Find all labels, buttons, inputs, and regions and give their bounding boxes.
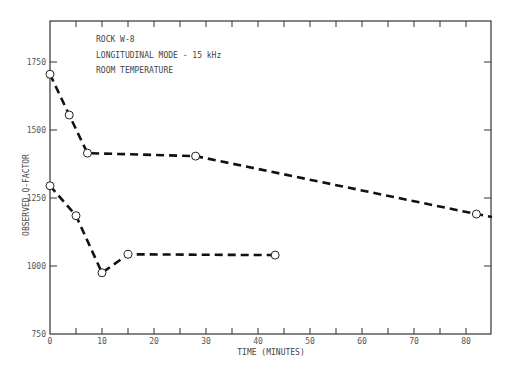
data-point-marker xyxy=(124,250,132,258)
x-tick-label: 0 xyxy=(48,337,53,346)
series-line-upper xyxy=(50,74,492,217)
x-tick-label: 10 xyxy=(97,337,107,346)
x-tick-label: 20 xyxy=(149,337,159,346)
annotation-rock: ROCK W-8 xyxy=(96,35,135,44)
annotation-temperature: ROOM TEMPERATURE xyxy=(96,66,173,75)
data-series xyxy=(46,70,492,277)
y-tick-label: 750 xyxy=(32,330,47,339)
y-tick-label: 1750 xyxy=(27,58,46,67)
x-tick-label: 80 xyxy=(461,337,471,346)
data-point-marker xyxy=(83,149,91,157)
data-point-marker xyxy=(472,210,480,218)
data-point-marker xyxy=(271,251,279,259)
x-tick-label: 40 xyxy=(253,337,263,346)
y-tick-label: 1500 xyxy=(27,126,46,135)
x-tick-label: 50 xyxy=(305,337,315,346)
data-point-marker xyxy=(46,182,54,190)
x-tick-label: 70 xyxy=(409,337,419,346)
q-factor-chart: 010203040506070807501000125015001750 ROC… xyxy=(0,0,507,369)
data-point-marker xyxy=(72,212,80,220)
x-axis-label: TIME (MINUTES) xyxy=(237,348,304,357)
y-axis-label: OBSERVED Q-FACTOR xyxy=(22,154,31,236)
annotation-mode: LONGITUDINAL MODE - 15 kHz xyxy=(96,51,221,60)
y-tick-label: 1000 xyxy=(27,262,46,271)
x-tick-label: 30 xyxy=(201,337,211,346)
data-point-marker xyxy=(65,111,73,119)
data-point-marker xyxy=(98,269,106,277)
series-line-lower xyxy=(50,186,275,273)
data-point-marker xyxy=(192,152,200,160)
data-point-marker xyxy=(46,70,54,78)
x-tick-label: 60 xyxy=(357,337,367,346)
